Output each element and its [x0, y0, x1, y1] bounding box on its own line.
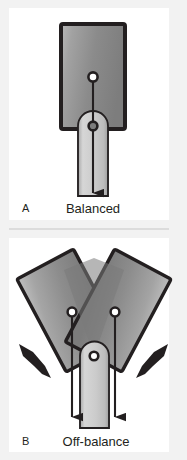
- panel-a-caption: Balanced: [66, 201, 120, 216]
- balance-diagram: A Balanced: [0, 0, 187, 460]
- pivot-marker: [89, 122, 98, 131]
- panel-a-letter: A: [22, 202, 30, 214]
- center-of-gravity-marker: [88, 72, 97, 81]
- center-of-gravity-marker-left: [68, 308, 77, 317]
- panel-b-pivot-marker: [90, 352, 99, 361]
- panel-b-caption: Off-balance: [63, 434, 130, 449]
- panel-b-letter: B: [22, 435, 29, 447]
- figure-root: A Balanced: [0, 0, 187, 460]
- panel-divider: [9, 228, 169, 230]
- center-of-gravity-marker-right: [111, 308, 120, 317]
